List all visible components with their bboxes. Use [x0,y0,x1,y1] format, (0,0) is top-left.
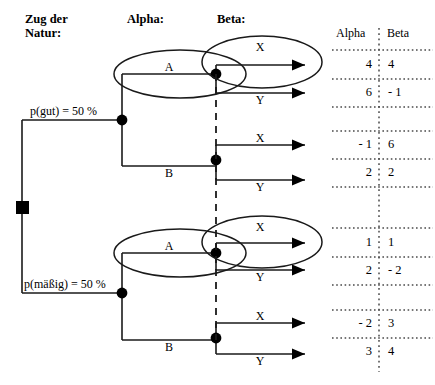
payoff-beta-3: 2 [388,165,434,180]
terminal-arrow-3 [292,140,305,151]
branch-label-x-lower-a: X [230,220,290,235]
terminal-arrow-5 [292,238,305,249]
branch-label-a-upper: A [139,60,199,75]
header-nature: Zug der Natur: [25,12,68,40]
terminal-arrow-7 [292,318,305,329]
branch-label-a-lower: A [139,239,199,254]
payoff-alpha-1: 6 [320,85,372,100]
branch-label-y-upper-b: Y [230,180,290,195]
payoff-beta-5: - 2 [388,263,434,278]
payoff-alpha-2: - 1 [320,137,372,152]
payoff-alpha-4: 1 [320,235,372,250]
branch-label-y-upper-a: Y [230,93,290,108]
branch-label-b-upper: B [139,166,199,181]
payoff-beta-6: 3 [388,316,434,331]
chance-label-good: p(gut) = 50 % [30,104,97,119]
alpha-node-upper [117,115,128,126]
branch-label-y-lower-b: Y [230,354,290,369]
payoff-beta-1: - 1 [388,85,434,100]
payoff-alpha-0: 4 [320,57,372,72]
payoff-alpha-3: 2 [320,165,372,180]
payoff-beta-7: 4 [388,344,434,359]
payoff-header-alpha: Alpha [336,26,365,41]
payoff-alpha-7: 3 [320,344,372,359]
branch-label-y-lower-a: Y [230,270,290,285]
terminal-arrow-1 [292,60,305,71]
payoff-beta-0: 4 [388,57,434,72]
alpha-node-lower [117,288,128,299]
branch-label-b-lower: B [139,340,199,355]
header-alpha: Alpha: [127,12,164,26]
nature-node [16,201,29,214]
payoff-alpha-6: - 2 [320,316,372,331]
terminal-arrow-8 [292,349,305,360]
header-beta: Beta: [217,12,245,26]
payoff-alpha-5: 2 [320,263,372,278]
branch-label-x-upper-b: X [230,131,290,146]
terminal-arrow-2 [292,88,305,99]
terminal-arrow-4 [292,175,305,186]
terminal-arrow-6 [292,265,305,276]
game-tree-diagram: Zug der Natur: Alpha: Beta: Alpha Beta p… [0,0,435,385]
payoff-beta-2: 6 [388,137,434,152]
payoff-beta-4: 1 [388,235,434,250]
chance-label-moderate: p(mäßig) = 50 % [24,277,106,292]
branch-label-x-lower-b: X [230,309,290,324]
branch-label-x-upper-a: X [230,40,290,55]
payoff-header-beta: Beta [387,26,409,41]
